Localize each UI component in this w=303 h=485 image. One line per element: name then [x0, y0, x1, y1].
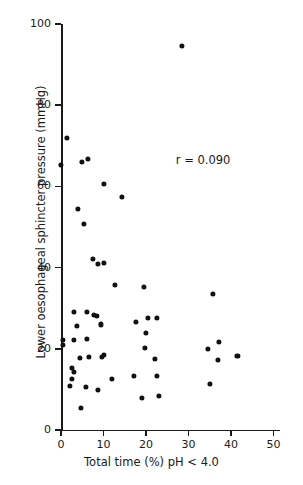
data-point: [146, 315, 151, 320]
x-tick-label: 40: [216, 438, 246, 451]
data-point: [84, 310, 89, 315]
data-point: [61, 343, 66, 348]
data-point: [83, 384, 88, 389]
x-tick-label: 20: [131, 438, 161, 451]
data-point: [58, 162, 63, 167]
data-point: [154, 315, 159, 320]
data-point: [152, 356, 157, 361]
x-tick-mark: [188, 430, 190, 436]
x-tick-label: 50: [259, 438, 289, 451]
data-point: [216, 358, 221, 363]
data-point: [79, 159, 84, 164]
x-tick-mark: [273, 430, 275, 436]
data-point: [72, 369, 77, 374]
data-point: [98, 322, 103, 327]
data-point: [157, 393, 162, 398]
data-point: [211, 291, 216, 296]
scatter-plot-figure: 020406080100 01020304050 r = 0.090 Total…: [0, 0, 303, 485]
correlation-annotation: r = 0.090: [176, 153, 231, 167]
y-tick-mark: [55, 267, 61, 269]
data-point: [95, 313, 100, 318]
x-tick-mark: [230, 430, 232, 436]
x-axis-line: [61, 430, 280, 432]
data-point: [78, 356, 83, 361]
data-point: [217, 339, 222, 344]
data-point: [101, 261, 106, 266]
data-point: [207, 382, 212, 387]
data-point: [141, 284, 146, 289]
data-point: [143, 345, 148, 350]
data-point: [90, 256, 95, 261]
y-tick-mark: [55, 186, 61, 188]
x-axis-label: Total time (%) pH < 4.0: [0, 455, 303, 469]
data-point: [75, 207, 80, 212]
y-tick-mark: [55, 348, 61, 350]
data-point: [120, 194, 125, 199]
data-point: [72, 309, 77, 314]
data-point: [205, 346, 210, 351]
x-tick-mark: [103, 430, 105, 436]
y-tick-mark: [55, 23, 61, 25]
data-point: [180, 43, 185, 48]
data-point: [78, 405, 83, 410]
data-point: [64, 135, 69, 140]
x-tick-mark: [145, 430, 147, 436]
data-point: [154, 373, 159, 378]
y-tick-mark: [55, 104, 61, 106]
data-point: [132, 373, 137, 378]
x-tick-label: 0: [46, 438, 76, 451]
x-tick-mark: [60, 430, 62, 436]
data-point: [86, 354, 91, 359]
y-axis-label-wrapper: Lower oesophageal sphincter pressure (mm…: [30, 12, 50, 432]
data-point: [75, 323, 80, 328]
data-point: [84, 336, 89, 341]
data-point: [69, 376, 74, 381]
data-point: [140, 395, 145, 400]
data-point: [95, 261, 100, 266]
data-point: [133, 319, 138, 324]
data-point: [101, 181, 106, 186]
y-axis-line: [61, 24, 63, 431]
data-point: [235, 354, 240, 359]
data-point: [112, 282, 117, 287]
x-tick-label: 10: [89, 438, 119, 451]
data-point: [72, 338, 77, 343]
data-point: [67, 384, 72, 389]
data-point: [95, 387, 100, 392]
data-point: [143, 330, 148, 335]
x-tick-label: 30: [174, 438, 204, 451]
data-point: [81, 222, 86, 227]
data-point: [101, 352, 106, 357]
y-axis-label: Lower oesophageal sphincter pressure (mm…: [34, 85, 48, 358]
data-point: [109, 376, 114, 381]
data-point: [86, 157, 91, 162]
